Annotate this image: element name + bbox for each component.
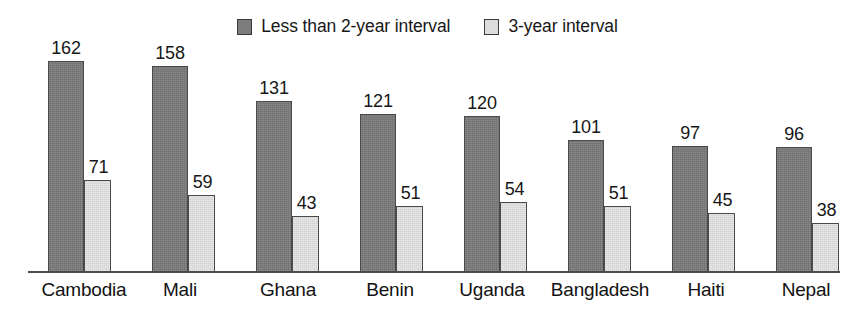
- legend-entry-3-year: 3-year interval: [484, 18, 617, 36]
- light-gray-square-icon: [484, 19, 499, 35]
- bar-uganda-less-than-2-year: [464, 116, 500, 272]
- value-label-uganda-less-than-2-year: 120: [456, 94, 508, 112]
- bar-nepal-less-than-2-year: [776, 147, 812, 272]
- bar-haiti-3-year: [708, 213, 735, 272]
- value-label-ghana-less-than-2-year: 131: [248, 79, 300, 97]
- category-label-nepal: Nepal: [736, 280, 855, 299]
- bar-uganda-3-year: [500, 202, 527, 272]
- value-label-nepal-less-than-2-year: 96: [768, 125, 820, 143]
- bar-cambodia-less-than-2-year: [48, 61, 84, 272]
- value-label-uganda-3-year: 54: [496, 180, 533, 198]
- value-label-bangladesh-less-than-2-year: 101: [560, 118, 612, 136]
- value-label-benin-less-than-2-year: 121: [352, 92, 404, 110]
- value-label-mali-less-than-2-year: 158: [144, 44, 196, 62]
- bar-haiti-less-than-2-year: [672, 146, 708, 272]
- bar-mali-less-than-2-year: [152, 66, 188, 272]
- bar-nepal-3-year: [812, 223, 839, 272]
- legend-label-less-than-2-year: Less than 2-year interval: [261, 18, 450, 36]
- legend-label-3-year: 3-year interval: [508, 18, 617, 36]
- bar-ghana-3-year: [292, 216, 319, 272]
- value-label-haiti-3-year: 45: [704, 191, 741, 209]
- value-label-cambodia-3-year: 71: [80, 158, 117, 176]
- bar-mali-3-year: [188, 195, 215, 272]
- value-label-haiti-less-than-2-year: 97: [664, 124, 716, 142]
- bar-ghana-less-than-2-year: [256, 101, 292, 272]
- bar-benin-3-year: [396, 206, 423, 272]
- bar-cambodia-3-year: [84, 180, 111, 272]
- bar-bangladesh-less-than-2-year: [568, 140, 604, 272]
- value-label-bangladesh-3-year: 51: [600, 184, 637, 202]
- bar-chart: Less than 2-year interval 3-year interva…: [0, 0, 855, 318]
- value-label-nepal-3-year: 38: [808, 201, 845, 219]
- value-label-benin-3-year: 51: [392, 184, 429, 202]
- value-label-ghana-3-year: 43: [288, 194, 325, 212]
- bar-bangladesh-3-year: [604, 206, 631, 272]
- dark-gray-square-icon: [237, 19, 252, 35]
- bar-benin-less-than-2-year: [360, 114, 396, 272]
- legend-entry-less-than-2-year: Less than 2-year interval: [237, 18, 450, 36]
- chart-legend: Less than 2-year interval 3-year interva…: [0, 12, 855, 42]
- value-label-mali-3-year: 59: [184, 173, 221, 191]
- value-label-cambodia-less-than-2-year: 162: [40, 39, 92, 57]
